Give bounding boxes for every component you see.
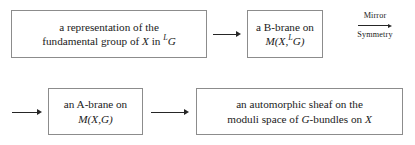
mirror-symmetry-arrow-group: Mirror Symmetry [338, 11, 412, 41]
math-var-g: G [302, 113, 310, 125]
text-in: in [149, 35, 163, 47]
mirror-label-top: Mirror [364, 11, 387, 21]
math-var-g: G [101, 113, 109, 125]
math-var-g: G [293, 35, 301, 47]
box-representation: a representation of the fundamental grou… [11, 10, 207, 58]
math-var-g: G [168, 35, 176, 47]
math-var-x: X [142, 35, 149, 47]
box-b-brane-line-2: M(X,LG) [266, 34, 305, 48]
arrow-shaft [151, 112, 185, 113]
arrow-abrane-to-sheaf [151, 106, 189, 118]
box-automorphic-sheaf-line-2: moduli space of G-bundles on X [227, 112, 372, 126]
arrow-into-abrane [12, 106, 42, 118]
box-a-brane: an A-brane on M(X,G) [48, 88, 143, 135]
math-var-x: X [365, 113, 372, 125]
box-a-brane-line-2: M(X,G) [78, 112, 113, 126]
box-automorphic-sheaf: an automorphic sheaf on the moduli space… [196, 88, 403, 135]
arrow-representation-to-bbrane [213, 28, 241, 40]
box-representation-line-2: fundamental group of X in LG [42, 34, 175, 48]
math-moduli-open: M( [78, 113, 91, 125]
box-b-brane: a B-brane on M(X,LG) [247, 10, 323, 58]
mirror-symmetry-arrow-icon [358, 22, 392, 29]
text-moduli-space-prefix: moduli space of [227, 113, 301, 125]
arrow-head-icon [388, 24, 392, 28]
mirror-label-bottom: Symmetry [357, 30, 392, 40]
box-a-brane-line-1: an A-brane on [64, 97, 127, 111]
box-automorphic-sheaf-line-1: an automorphic sheaf on the [236, 97, 363, 111]
box-b-brane-line-1: a B-brane on [256, 20, 314, 34]
arrow-shaft [12, 112, 38, 113]
arrow-shaft [358, 25, 389, 26]
math-moduli-open: M( [266, 35, 279, 47]
arrow-head-icon [236, 31, 241, 37]
arrow-head-icon [37, 109, 42, 115]
diagram-canvas: a representation of the fundamental grou… [0, 0, 415, 145]
box-representation-line-1: a representation of the [59, 20, 159, 34]
math-moduli-close: ) [301, 35, 305, 47]
text-bundles-on: -bundles on [310, 113, 365, 125]
arrow-shaft [213, 34, 237, 35]
text-fundamental-group-prefix: fundamental group of [42, 35, 142, 47]
math-moduli-close: ) [109, 113, 113, 125]
arrow-head-icon [184, 109, 189, 115]
